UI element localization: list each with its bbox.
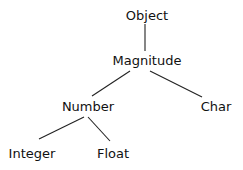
diagram-edges [0,0,243,170]
node-magnitude: Magnitude [113,53,182,68]
node-number: Number [62,99,114,114]
node-float: Float [97,146,129,161]
edge-number-float [88,117,110,141]
node-integer: Integer [9,146,56,161]
edge-magnitude-number [92,71,130,96]
node-object: Object [126,8,168,23]
node-char: Char [201,99,232,114]
class-hierarchy-diagram: Object Magnitude Number Char Integer Flo… [0,0,243,170]
edge-number-integer [39,117,84,139]
edge-magnitude-char [150,71,202,97]
